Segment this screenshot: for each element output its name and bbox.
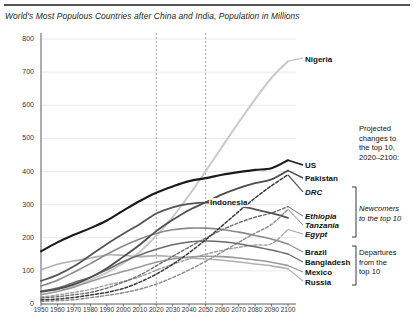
line-chart-svg (0, 0, 414, 333)
series-label-brazil: Brazil (305, 248, 327, 257)
leader-line-nigeria (288, 58, 303, 61)
series-label-indonesia: Indonesia (209, 198, 248, 207)
y-tick-label: 300 (10, 201, 34, 208)
series-label-ethiopia: Ethiopia (305, 212, 337, 221)
leader-line-brazil (288, 244, 303, 252)
y-tick-label: 800 (10, 35, 34, 42)
series-label-egypt: Egypt (305, 230, 327, 239)
y-tick-label: 600 (10, 101, 34, 108)
leader-line-us (288, 160, 303, 165)
series-line-indonesia (41, 203, 288, 281)
series-label-russia: Russia (305, 278, 331, 287)
series-label-drc: DRC (305, 188, 322, 197)
series-line-brazil (41, 228, 288, 286)
bracket-newcomers (352, 187, 356, 237)
series-label-tanzania: Tanzania (305, 221, 339, 230)
series-line-nigeria (41, 61, 288, 291)
y-tick-label: 500 (10, 134, 34, 141)
x-tick-label: 2100 (275, 306, 301, 313)
series-label-bangladesh: Bangladesh (305, 258, 350, 267)
annotation-departures: Departuresfrom thetop 10 (359, 248, 397, 277)
series-label-mexico: Mexico (305, 268, 332, 277)
y-tick-label: 400 (10, 168, 34, 175)
y-tick-label: 700 (10, 68, 34, 75)
series-line-mexico (41, 256, 288, 294)
series-label-pakistan: Pakistan (305, 174, 338, 183)
chart-canvas (0, 0, 414, 333)
leader-line-bangladesh (288, 254, 303, 262)
annotation-projected-changes: Projectedchanges tothe top 10,2020–2100: (359, 124, 399, 162)
annotation-newcomers: Newcomersto the top 10 (359, 204, 401, 223)
series-label-us: US (305, 161, 316, 170)
leader-line-egypt (288, 229, 303, 234)
bracket-departures (352, 246, 356, 285)
y-tick-label: 200 (10, 234, 34, 241)
series-label-nigeria: Nigeria (305, 55, 332, 64)
y-tick-label: 100 (10, 267, 34, 274)
